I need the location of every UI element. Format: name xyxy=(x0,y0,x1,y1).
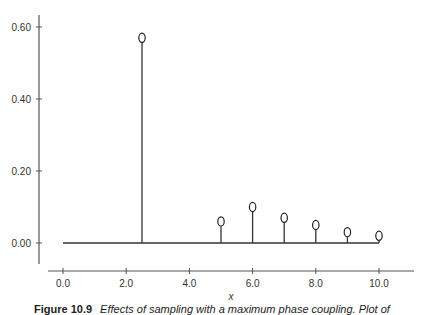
stem-point xyxy=(376,231,382,243)
stem-marker xyxy=(218,217,224,226)
stem-marker xyxy=(313,220,319,229)
stem-point xyxy=(281,213,287,243)
figure-label: Figure 10.9 xyxy=(34,303,92,315)
stem-marker xyxy=(281,213,287,222)
stem-marker xyxy=(139,33,145,42)
x-tick-label: 0.0 xyxy=(56,278,70,289)
y-tick-label: 0.60 xyxy=(12,22,32,33)
caption-text: Effects of sampling with a maximum phase… xyxy=(100,303,390,315)
stem-marker xyxy=(376,231,382,240)
x-axis: 0.02.04.06.08.010.0x xyxy=(48,268,414,300)
stem-marker xyxy=(249,202,255,211)
stem-point xyxy=(218,217,224,243)
x-tick-label: 2.0 xyxy=(119,278,133,289)
x-tick-label: 10.0 xyxy=(369,278,389,289)
stems xyxy=(139,33,382,243)
stem-chart: 0.000.200.400.600.02.04.06.08.010.0x xyxy=(0,0,428,300)
stem-point xyxy=(313,220,319,243)
x-axis-title: x xyxy=(228,291,235,300)
stem-point xyxy=(249,202,255,243)
stem-point xyxy=(139,33,145,243)
x-tick-label: 8.0 xyxy=(309,278,323,289)
y-tick-label: 0.40 xyxy=(12,94,32,105)
figure-caption: Figure 10.9Effects of sampling with a ma… xyxy=(34,303,414,315)
stem-point xyxy=(344,228,350,243)
y-tick-label: 0.00 xyxy=(12,238,32,249)
x-tick-label: 6.0 xyxy=(246,278,260,289)
stem-marker xyxy=(344,228,350,237)
y-tick-label: 0.20 xyxy=(12,166,32,177)
x-tick-label: 4.0 xyxy=(182,278,196,289)
y-axis: 0.000.200.400.60 xyxy=(12,15,42,264)
